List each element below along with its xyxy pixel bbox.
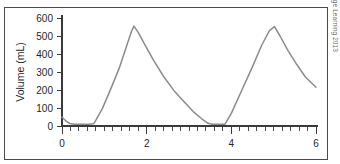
x-tick-label: 6 — [313, 138, 319, 149]
y-axis: 0100200300400500600 — [36, 13, 62, 132]
x-tick-label: 4 — [229, 138, 235, 149]
x-tick-label: 2 — [144, 138, 150, 149]
y-tick-label: 200 — [36, 85, 53, 96]
data-line — [62, 26, 316, 124]
cut-off-caption-text — [0, 0, 340, 4]
y-tick-label: 600 — [36, 13, 53, 24]
copyright-notice: © Cengage Learning 2013 — [332, 0, 339, 52]
y-tick-label: 100 — [36, 103, 53, 114]
y-axis-title: Volume (mL) — [14, 42, 26, 102]
y-tick-label: 500 — [36, 31, 53, 42]
volume-line-chart: 0100200300400500600 0246 Volume (mL) — [4, 7, 328, 160]
x-axis: 0246 — [59, 126, 319, 149]
x-tick-label: 0 — [59, 138, 65, 149]
y-tick-label: 400 — [36, 49, 53, 60]
data-series-group — [62, 26, 316, 124]
figure-container: 0100200300400500600 0246 Volume (mL) © C… — [0, 0, 340, 164]
y-tick-label: 0 — [47, 121, 53, 132]
y-tick-label: 300 — [36, 67, 53, 78]
